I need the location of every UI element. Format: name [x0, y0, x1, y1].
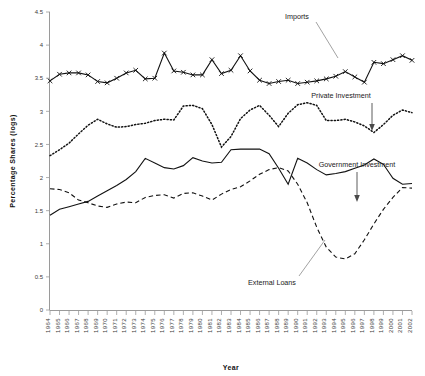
- y-axis-ticks: 00.511.522.533.544.5: [35, 9, 50, 313]
- x-tick-label: 2000: [388, 318, 394, 333]
- x-marker: [343, 69, 348, 74]
- x-tick-label: 1999: [378, 318, 384, 333]
- x-tick-label: 2002: [407, 318, 413, 333]
- series-government-investment: [50, 149, 412, 215]
- x-marker: [248, 69, 253, 74]
- x-tick-label: 1992: [312, 318, 318, 333]
- imports-label: Imports: [285, 12, 309, 21]
- x-axis: 1964196519661967196819691970197119721973…: [45, 311, 413, 333]
- government-investment-label: Government Investment: [319, 160, 396, 169]
- private-investment-arrowhead: [369, 124, 375, 131]
- x-marker: [410, 58, 415, 63]
- x-tick-label: 1982: [216, 318, 222, 333]
- x-tick-label: 1977: [169, 318, 175, 333]
- data-series-group: [48, 51, 415, 259]
- x-tick-label: 1983: [226, 318, 232, 333]
- private-investment-label: Private Investment: [311, 91, 371, 100]
- series-line: [50, 149, 412, 215]
- x-tick-label: 1972: [121, 318, 127, 333]
- x-tick-label: 1987: [264, 318, 270, 333]
- annotations-group: Imports Private Investment Government In…: [248, 12, 395, 287]
- x-tick-label: 1967: [74, 318, 80, 333]
- x-tick-label: 1973: [131, 318, 137, 333]
- y-tick-label: 4.5: [35, 9, 44, 15]
- x-tick-label: 1993: [321, 318, 327, 333]
- x-tick-label: 1965: [55, 318, 61, 333]
- x-marker: [210, 57, 215, 62]
- chart-figure: 00.511.522.533.544.5 1964196519661967196…: [0, 0, 425, 376]
- x-tick-label: 1988: [274, 318, 280, 333]
- x-tick-label: 1974: [140, 318, 146, 333]
- y-axis-title: Percentage Shares (logs): [9, 114, 17, 208]
- x-tick-label: 1980: [197, 318, 203, 333]
- y-tick-label: 1: [40, 241, 44, 247]
- x-tick-label: 1984: [236, 318, 242, 333]
- x-tick-label: 1997: [359, 318, 365, 333]
- x-tick-label: 1979: [188, 318, 194, 333]
- external-loans-leader-line: [299, 240, 325, 276]
- x-tick-label: 2001: [397, 318, 403, 333]
- y-tick-label: 3: [40, 109, 44, 115]
- x-marker: [362, 80, 367, 85]
- x-marker: [162, 51, 167, 56]
- series-private-investment: [50, 103, 412, 156]
- y-axis: 00.511.522.533.544.5: [35, 9, 50, 313]
- line-chart-canvas: 00.511.522.533.544.5 1964196519661967196…: [0, 0, 425, 376]
- y-tick-label: 2.5: [35, 142, 44, 148]
- x-tick-label: 1978: [178, 318, 184, 333]
- x-tick-label: 1998: [369, 318, 375, 333]
- x-tick-label: 1994: [331, 318, 337, 333]
- x-tick-label: 1989: [283, 318, 289, 333]
- y-tick-label: 2: [40, 175, 44, 181]
- x-marker: [114, 76, 119, 81]
- y-tick-label: 3.5: [35, 75, 44, 81]
- imports-leader-line: [316, 22, 338, 58]
- series-line: [50, 53, 412, 83]
- x-tick-label: 1991: [302, 318, 308, 333]
- x-axis-ticks: 1964196519661967196819691970197119721973…: [45, 311, 413, 333]
- x-tick-label: 1981: [207, 318, 213, 333]
- y-tick-label: 0: [40, 307, 44, 313]
- series-imports: [48, 51, 415, 86]
- x-tick-label: 1964: [45, 318, 51, 333]
- y-tick-label: 4: [40, 42, 44, 48]
- external-loans-label: External Loans: [248, 278, 296, 287]
- x-marker: [353, 75, 358, 80]
- x-tick-label: 1990: [293, 318, 299, 333]
- x-tick-label: 1969: [93, 318, 99, 333]
- x-tick-label: 1968: [83, 318, 89, 333]
- x-tick-label: 1971: [112, 318, 118, 333]
- x-tick-label: 1995: [340, 318, 346, 333]
- x-tick-label: 1966: [64, 318, 70, 333]
- series-line: [50, 168, 412, 259]
- series-external-loans: [50, 168, 412, 259]
- x-tick-label: 1986: [255, 318, 261, 333]
- y-tick-label: 0.5: [35, 274, 44, 280]
- government-investment-arrowhead: [354, 195, 360, 202]
- x-axis-title: Year: [223, 364, 239, 371]
- x-tick-label: 1976: [159, 318, 165, 333]
- x-tick-label: 1985: [245, 318, 251, 333]
- series-line: [50, 103, 412, 156]
- x-marker: [238, 53, 243, 58]
- y-tick-label: 1.5: [35, 208, 44, 214]
- x-tick-label: 1996: [350, 318, 356, 333]
- x-tick-label: 1970: [102, 318, 108, 333]
- x-marker: [400, 53, 405, 58]
- x-marker: [391, 57, 396, 62]
- x-tick-label: 1975: [150, 318, 156, 333]
